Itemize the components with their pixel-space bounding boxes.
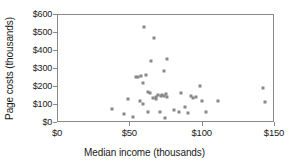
data-point	[263, 101, 266, 104]
data-point	[122, 112, 125, 115]
data-point	[179, 91, 182, 94]
plot-area	[57, 14, 274, 122]
data-point	[127, 97, 130, 100]
x-axis-tick-label: $100	[191, 127, 211, 138]
y-axis-tick	[53, 14, 57, 15]
y-axis-tick-label: $600	[33, 9, 52, 19]
data-point	[163, 69, 166, 72]
data-point	[164, 116, 167, 119]
data-point	[156, 93, 159, 96]
y-axis-tick	[53, 122, 57, 123]
data-point	[153, 37, 156, 40]
y-axis-tick	[53, 32, 57, 33]
x-axis-tick	[274, 122, 275, 126]
data-point	[165, 57, 168, 60]
data-point	[111, 108, 114, 111]
data-point	[198, 85, 201, 88]
y-axis-tick-label: $200	[33, 81, 52, 91]
y-axis-title: Page costs (thousands)	[4, 9, 15, 129]
x-axis-title: Median income (thousands)	[0, 147, 289, 158]
y-axis-tick-label: $400	[33, 45, 52, 55]
data-point	[149, 59, 152, 62]
data-point	[173, 108, 176, 111]
data-point	[144, 74, 147, 77]
data-point	[142, 103, 145, 106]
data-point	[216, 99, 219, 102]
data-point	[148, 91, 151, 94]
y-axis-tick	[53, 86, 57, 87]
y-axis-tick	[53, 50, 57, 51]
data-point	[200, 99, 203, 102]
data-point	[141, 81, 144, 84]
y-axis-tick-label: $100	[33, 99, 52, 109]
data-point	[158, 111, 161, 114]
x-axis-tick-label: $150	[264, 127, 284, 138]
y-axis-tick-label: $0	[42, 117, 52, 127]
data-point	[132, 116, 135, 119]
data-point	[138, 100, 141, 103]
x-axis-tick	[129, 122, 130, 126]
data-point	[187, 111, 190, 114]
data-point	[166, 95, 169, 98]
data-point	[143, 26, 146, 29]
y-axis-tick-label: $500	[33, 27, 52, 37]
x-axis-tick-label: $0	[52, 127, 62, 138]
scatter-chart-figure: Page costs (thousands) Median income (th…	[0, 0, 289, 165]
data-point	[155, 98, 158, 101]
data-point	[140, 74, 143, 77]
data-point	[262, 87, 265, 90]
data-point	[183, 105, 186, 108]
y-axis-tick	[53, 104, 57, 105]
data-point	[204, 111, 207, 114]
data-point	[195, 96, 198, 99]
y-axis-tick	[53, 68, 57, 69]
y-axis-tick-label: $300	[33, 63, 52, 73]
x-axis-tick	[202, 122, 203, 126]
data-point	[146, 110, 149, 113]
x-axis-tick-label: $50	[122, 127, 137, 138]
data-point	[177, 110, 180, 113]
